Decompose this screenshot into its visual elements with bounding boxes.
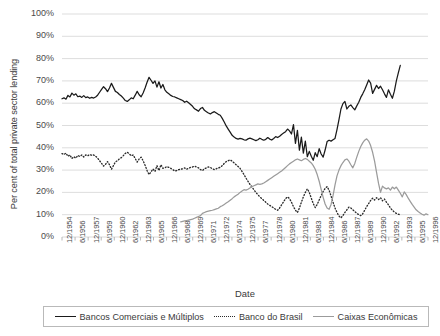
x-axis-tick-label: 12/1975 xyxy=(248,217,257,243)
x-axis-tick-label: 12/1978 xyxy=(275,217,284,243)
x-axis-tick-label: 12/1993 xyxy=(405,217,414,243)
x-axis-tick-label: 6/1971 xyxy=(209,221,218,243)
legend-label: Bancos Comerciais e Múltiplos xyxy=(80,312,204,322)
x-axis-tick-label: 12/1957 xyxy=(92,217,101,243)
x-axis-tick-label: 12/1996 xyxy=(431,217,440,243)
series-lines xyxy=(62,65,428,222)
x-axis-tick-label: 6/1989 xyxy=(366,221,375,243)
x-axis-tick-label: 12/1963 xyxy=(144,217,153,243)
series-line xyxy=(62,65,400,160)
legend-entry[interactable]: Banco do Brasil xyxy=(214,312,303,322)
legend-entry[interactable]: Bancos Comerciais e Múltiplos xyxy=(55,312,204,322)
x-axis-tick-label: 12/1990 xyxy=(379,217,388,243)
x-axis-tick-label: 6/1962 xyxy=(131,221,140,243)
legend-swatch xyxy=(214,316,235,317)
legend-swatch xyxy=(313,316,334,317)
x-axis-tick-label: 12/1987 xyxy=(353,217,362,243)
x-axis-tick-label: 6/1995 xyxy=(418,221,427,243)
x-axis-tick-label: 12/1960 xyxy=(118,217,127,243)
x-axis-tick-label: 6/1956 xyxy=(78,221,87,243)
x-axis-tick-label: 6/1968 xyxy=(183,221,192,243)
x-axis-tick-label: 12/1981 xyxy=(301,217,310,243)
x-axis-tick-label: 12/1966 xyxy=(170,217,179,243)
x-axis-tick-label: 6/1992 xyxy=(392,221,401,243)
chart-legend: Bancos Comerciais e MúltiplosBanco do Br… xyxy=(43,306,429,327)
x-axis-tick-label: 12/1984 xyxy=(327,217,336,243)
gridlines xyxy=(62,14,428,237)
legend-swatch xyxy=(55,316,76,317)
x-axis-tick-label: 6/1959 xyxy=(105,221,114,243)
legend-entry[interactable]: Caixas Econômicas xyxy=(313,312,418,322)
x-axis-tick-label: 12/1972 xyxy=(222,217,231,243)
x-axis-tick-label: 6/1965 xyxy=(157,221,166,243)
x-axis-tick-label: 6/1977 xyxy=(261,221,270,243)
legend-label: Banco do Brasil xyxy=(239,312,303,322)
x-axis-tick-label: 6/1986 xyxy=(340,221,349,243)
x-axis-tick-label: 12/1969 xyxy=(196,217,205,243)
x-axis-tick-label: 6/1974 xyxy=(235,221,244,243)
legend-label: Caixas Econômicas xyxy=(338,312,418,322)
x-axis-title: Date xyxy=(62,288,428,299)
x-axis-tick-label: 12/1954 xyxy=(65,217,74,243)
x-axis-tick-label: 6/1983 xyxy=(314,221,323,243)
x-axis-tick-label: 6/1980 xyxy=(288,221,297,243)
